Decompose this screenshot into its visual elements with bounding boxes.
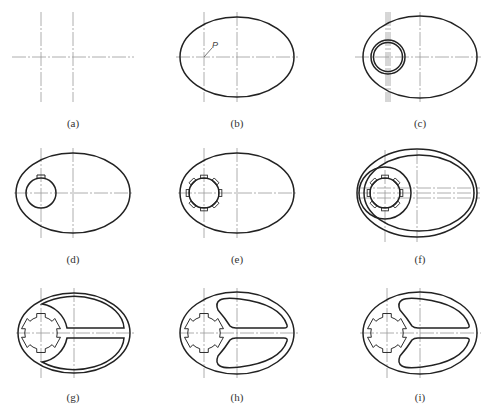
panel-c-drawing [355, 12, 481, 102]
panel-label-h: (h) [231, 391, 244, 403]
panel-g-drawing [16, 288, 134, 378]
panel-label-f: (f) [415, 253, 426, 265]
panel-e-drawing [178, 148, 298, 238]
panel-f-drawing [357, 149, 480, 242]
upper-slot [42, 296, 124, 328]
panel-label-i: (i) [415, 391, 425, 403]
panel-label-c: (c) [414, 117, 426, 129]
leader-line [204, 48, 212, 57]
panel-i-drawing [360, 288, 481, 378]
panel-a-drawing [12, 12, 134, 102]
figure-canvas: P [0, 0, 489, 413]
panel-label-a: (a) [67, 117, 79, 129]
panel-label-e: (e) [231, 253, 243, 265]
panel-d-drawing [14, 148, 134, 238]
panel-h-drawing [180, 288, 298, 378]
lower-slot [42, 338, 124, 370]
panel-label-g: (g) [67, 391, 80, 403]
panel-label-b: (b) [231, 117, 244, 129]
point-label-p: P [212, 40, 218, 50]
panel-label-d: (d) [67, 253, 80, 265]
panel-b-drawing: P [176, 12, 298, 102]
